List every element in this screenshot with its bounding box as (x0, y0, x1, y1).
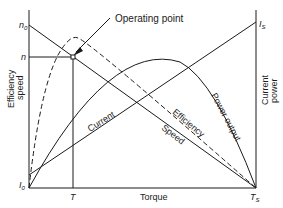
T-tick-label: T (70, 192, 77, 202)
speed-curve-label: Speed (160, 123, 187, 147)
operating-point-marker (71, 55, 75, 59)
left-axis-label-line2: speed (15, 75, 25, 100)
motor-characteristics-diagram: Operating point n0 n I0 IS T TS Torque E… (0, 0, 283, 208)
operating-point-leader (76, 18, 110, 52)
n0-tick-label: n0 (19, 20, 28, 31)
Is-tick-label: IS (259, 19, 266, 30)
operating-point-label: Operating point (115, 13, 184, 24)
x-axis-label: Torque (140, 192, 168, 202)
power-curve-label: Power output (209, 91, 243, 143)
current-curve-label: Current (86, 109, 117, 134)
n-tick-label: n (21, 52, 26, 62)
power-curve (29, 59, 256, 188)
right-axis-label-line2: power (269, 78, 279, 103)
Ts-tick-label: TS (250, 192, 260, 203)
I0-tick-label: I0 (19, 180, 26, 191)
